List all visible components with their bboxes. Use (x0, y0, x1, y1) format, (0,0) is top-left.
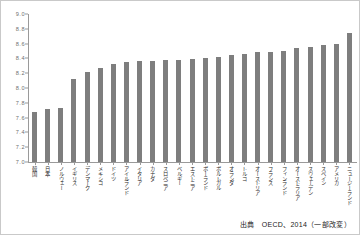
bar (334, 44, 339, 162)
x-axis-tick-mark (113, 163, 114, 165)
y-axis-tick-mark (25, 58, 28, 59)
x-axis-tick-label: フィンランド (281, 166, 286, 195)
bar (45, 109, 50, 162)
bar (163, 60, 168, 162)
y-axis-tick-mark (25, 88, 28, 89)
bar (124, 62, 129, 162)
x-axis-tick-mark (100, 163, 101, 165)
y-axis-tick-label: 7.2 (16, 144, 25, 150)
y-axis-tick-mark (25, 73, 28, 74)
bar (137, 61, 142, 162)
y-axis-tick-label: 7.8 (16, 100, 25, 106)
x-axis-tick-mark (48, 163, 49, 165)
y-axis-tick-mark (25, 147, 28, 148)
x-axis-tick-label: ドイツ (111, 166, 116, 180)
x-axis-tick-mark (61, 163, 62, 165)
x-axis-tick-mark (153, 163, 154, 165)
bar (294, 48, 299, 162)
y-axis-tick-mark (25, 132, 28, 133)
x-axis-tick-label: ベルギー (176, 166, 181, 185)
x-axis-tick-mark (166, 163, 167, 165)
x-axis-tick-label: スペイン (320, 166, 325, 185)
x-axis-tick-mark (192, 163, 193, 165)
y-axis-tick-label: 7.0 (16, 159, 25, 165)
bar (268, 52, 273, 162)
bar (229, 55, 234, 162)
x-axis-tick-label: トルコ (242, 166, 247, 180)
bar (308, 47, 313, 162)
x-axis-tick-mark (74, 163, 75, 165)
x-axis-tick-label: スウェーデン (307, 166, 312, 195)
x-axis-tick-mark (87, 163, 88, 165)
bar (85, 72, 90, 162)
y-axis-tick-label: 7.4 (16, 129, 25, 135)
y-axis-tick-label: 8.0 (16, 85, 25, 91)
y-axis-tick-label: 8.8 (16, 26, 25, 32)
source-caption: 出典 OECD、2014（一部改変） (240, 219, 351, 229)
y-axis-tick-mark (25, 102, 28, 103)
x-axis-tick-label: 韓国 (32, 166, 37, 176)
plot-area (28, 14, 356, 162)
bar (255, 52, 260, 162)
bar (71, 79, 76, 162)
x-axis-tick-label: スロベニア (163, 166, 168, 190)
x-axis-tick-label: イタリア (137, 166, 142, 185)
x-axis-tick-mark (35, 163, 36, 165)
x-axis-tick-mark (271, 163, 272, 165)
y-axis-tick-mark (25, 14, 28, 15)
x-axis-tick-label: フランス (268, 166, 273, 185)
y-axis-tick-mark (25, 162, 28, 163)
y-axis-tick-label: 9.0 (16, 11, 25, 17)
x-axis-tick-mark (284, 163, 285, 165)
x-axis-tick-mark (126, 163, 127, 165)
bar (242, 54, 247, 162)
x-axis-tick-label: デンマーク (84, 166, 89, 190)
y-axis-tick-label: 8.2 (16, 70, 25, 76)
x-axis-tick-mark (179, 163, 180, 165)
x-axis-tick-mark (231, 163, 232, 165)
bar (111, 64, 116, 162)
x-axis-tick-mark (258, 163, 259, 165)
chart-figure: 9.08.88.68.48.28.07.87.67.47.27.0 韓国日本ノル… (0, 0, 360, 235)
bar (203, 58, 208, 162)
bar (98, 68, 103, 162)
x-axis-tick-mark (323, 163, 324, 165)
x-axis-tick-label: オランダ (229, 166, 234, 185)
x-axis-tick-mark (336, 163, 337, 165)
x-axis-tick-label: オーストリア (255, 166, 260, 195)
bar (190, 59, 195, 162)
x-axis-tick-mark (244, 163, 245, 165)
bar (58, 108, 63, 162)
x-axis-tick-mark (310, 163, 311, 165)
x-axis-tick-mark (297, 163, 298, 165)
x-axis-tick-label: アイルランド (124, 166, 129, 195)
bar (32, 112, 37, 162)
y-axis-tick-mark (25, 28, 28, 29)
y-axis-tick-mark (25, 43, 28, 44)
bar (216, 57, 221, 162)
x-axis-tick-mark (349, 163, 350, 165)
x-axis-tick-label: 日本 (45, 166, 50, 176)
y-axis-tick-label: 8.6 (16, 41, 25, 47)
x-axis-tick-label: アメリカ (334, 166, 339, 185)
y-axis-tick-label: 8.4 (16, 55, 25, 61)
x-axis-tick-mark (140, 163, 141, 165)
x-axis-tick-mark (205, 163, 206, 165)
x-axis-tick-label: ポルトガル (216, 166, 221, 190)
x-axis-tick-label: オーストラリア (294, 166, 299, 200)
y-axis-labels: 9.08.88.68.48.28.07.87.67.47.27.0 (1, 1, 25, 235)
x-axis-tick-label: エストニア (189, 166, 194, 190)
bar (281, 51, 286, 162)
x-axis-tick-label: ニュージーランド (347, 166, 352, 204)
bar (347, 33, 352, 163)
x-axis-tick-label: カナダ (150, 166, 155, 180)
x-axis-tick-label: ノルウェー (58, 166, 63, 190)
y-axis-tick-mark (25, 117, 28, 118)
x-axis-tick-label: メキシコ (97, 166, 102, 185)
bar (150, 61, 155, 162)
x-axis-tick-label: ポーランド (202, 166, 207, 190)
x-axis-tick-mark (218, 163, 219, 165)
x-axis-tick-label: イギリス (71, 166, 76, 185)
y-axis-tick-label: 7.6 (16, 115, 25, 121)
bar (176, 60, 181, 162)
